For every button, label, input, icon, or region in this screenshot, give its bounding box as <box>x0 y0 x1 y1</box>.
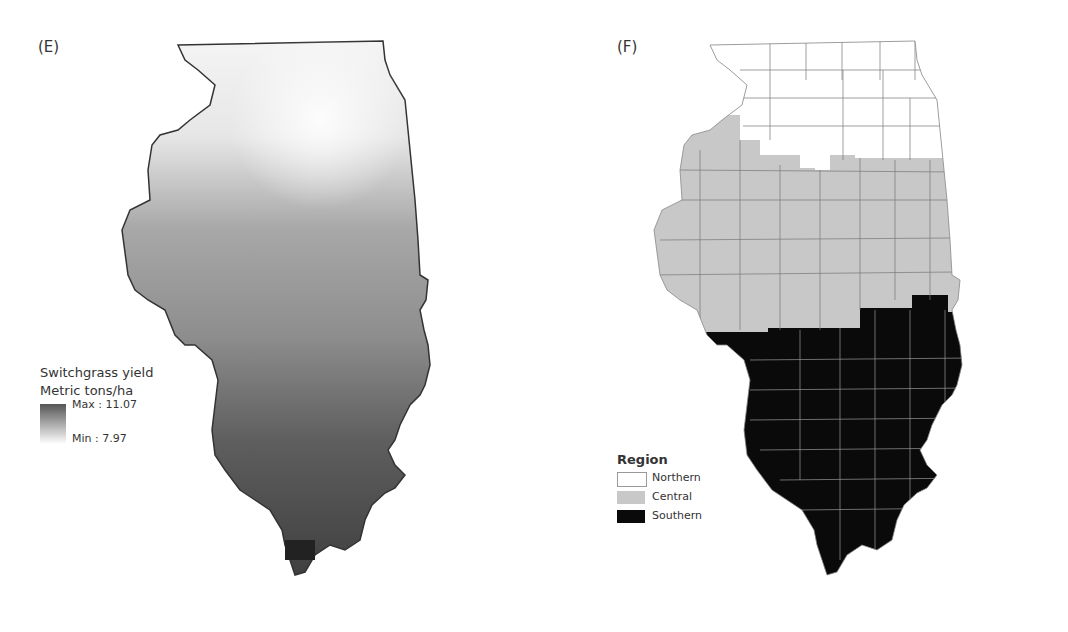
legend-label-central: Central <box>652 490 692 503</box>
legend-swatch-southern <box>617 510 645 523</box>
southern-region <box>640 295 980 630</box>
region-legend-title: Region <box>617 452 668 467</box>
legend-label-northern: Northern <box>652 471 701 484</box>
panel-f-region-map <box>0 0 1068 632</box>
legend-swatch-central <box>617 491 645 504</box>
legend-swatch-northern <box>617 472 647 487</box>
legend-label-southern: Southern <box>652 509 702 522</box>
